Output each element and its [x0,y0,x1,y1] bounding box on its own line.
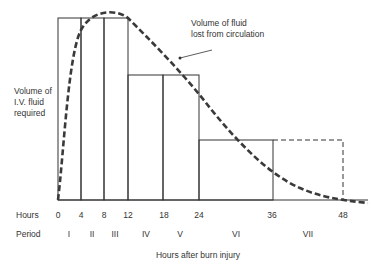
box-period-III [104,18,128,200]
box-period-II [81,18,104,200]
hour-tick-4: 4 [79,210,84,220]
curve-label-pointer [179,57,182,60]
hour-tick-24: 24 [194,210,204,220]
y-axis-label-line-3: required [14,108,45,118]
period-VI: VI [232,229,240,239]
hours-row-label: Hours [16,210,39,220]
period-III: III [111,229,118,239]
y-axis-label-line-2: I.V. fluid [14,97,44,107]
x-axis-title: Hours after burn injury [156,250,241,260]
period-IV: IV [142,229,150,239]
curve-label-line-1: Volume of fluid [191,18,247,28]
hour-tick-12: 12 [123,210,133,220]
period-VII: VII [303,229,313,239]
fluid-required-boxes [58,18,343,200]
hour-tick-48: 48 [338,210,348,220]
period-row-label: Period [16,229,41,239]
period-I: I [68,229,70,239]
period-II: II [90,229,95,239]
hour-tick-0: 0 [56,210,61,220]
box-period-IV [128,75,163,200]
hour-tick-18: 18 [159,210,169,220]
box-period-V [163,75,199,200]
burn-fluid-diagram: Volume of I.V. fluid required Volume of … [0,0,379,271]
hour-tick-8: 8 [102,210,107,220]
curve-label-leader [180,50,212,58]
y-axis-label-line-1: Volume of [14,86,52,96]
hour-tick-36: 36 [267,210,277,220]
box-period-VI [199,140,273,200]
curve-label-line-2: lost from circulation [191,29,264,39]
period-V: V [177,229,183,239]
